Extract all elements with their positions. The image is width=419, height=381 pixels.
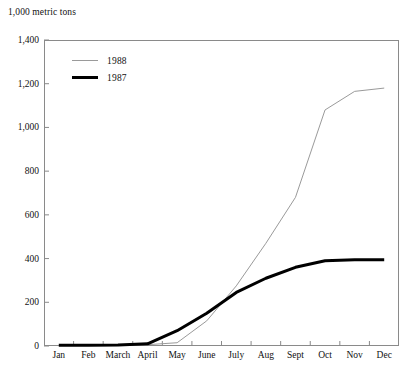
x-axis-tick-label: May xyxy=(168,350,185,360)
x-axis-tick-label: April xyxy=(138,350,158,360)
y-axis-tick-label: 0 xyxy=(1,341,39,351)
y-axis-tick-label: 200 xyxy=(1,297,39,307)
x-axis-tick-label: Sept xyxy=(287,350,304,360)
y-axis-tick-label: 1,000 xyxy=(1,122,39,132)
x-axis-tick-label: Aug xyxy=(258,350,274,360)
legend-item-1987: 1987 xyxy=(72,69,182,86)
series-line-1987 xyxy=(59,260,384,346)
y-axis-tick-label: 400 xyxy=(1,254,39,264)
y-axis-tick-label: 800 xyxy=(1,166,39,176)
y-axis-tick-label: 1,200 xyxy=(1,79,39,89)
legend: 1988 1987 xyxy=(72,52,182,86)
series-line-1988 xyxy=(59,88,384,345)
x-axis-tick-label: Dec xyxy=(377,350,392,360)
legend-swatch-1987 xyxy=(72,76,98,79)
legend-label-1987: 1987 xyxy=(107,73,127,83)
x-axis-tick-label: Oct xyxy=(318,350,332,360)
legend-swatch-1988 xyxy=(72,60,98,61)
legend-label-1988: 1988 xyxy=(107,56,127,66)
y-axis-tick-label: 1,400 xyxy=(1,35,39,45)
x-axis-tick-label: Feb xyxy=(81,350,95,360)
y-axis-tick-label: 600 xyxy=(1,210,39,220)
legend-item-1988: 1988 xyxy=(72,52,182,69)
x-axis-tick-label: March xyxy=(106,350,131,360)
y-axis-tick-labels: 02004006008001,0001,2001,400 xyxy=(0,0,39,381)
x-axis-tick-labels: JanFebMarchAprilMayJuneJulyAugSeptOctNov… xyxy=(44,350,399,370)
x-axis-tick-label: Nov xyxy=(346,350,362,360)
x-axis-tick-label: July xyxy=(228,350,244,360)
x-axis-tick-label: June xyxy=(198,350,215,360)
x-axis-tick-label: Jan xyxy=(52,350,65,360)
line-chart: 1,000 metric tons 02004006008001,0001,20… xyxy=(0,0,419,381)
